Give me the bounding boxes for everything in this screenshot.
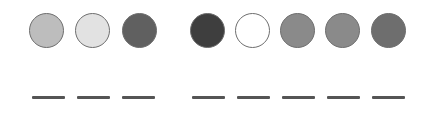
circle-7 (325, 13, 360, 48)
blank-line-2 (77, 96, 110, 99)
circle-2 (75, 13, 110, 48)
blank-line-3 (122, 96, 155, 99)
circle-8 (371, 13, 406, 48)
blank-line-7 (327, 96, 360, 99)
circle-3 (122, 13, 157, 48)
blank-line-1 (32, 96, 65, 99)
circle-6 (280, 13, 315, 48)
circle-5 (235, 13, 270, 48)
blank-line-6 (282, 96, 315, 99)
circle-4 (190, 13, 225, 48)
blank-line-5 (237, 96, 270, 99)
blank-line-4 (192, 96, 225, 99)
blank-line-8 (372, 96, 405, 99)
circle-1 (29, 13, 64, 48)
